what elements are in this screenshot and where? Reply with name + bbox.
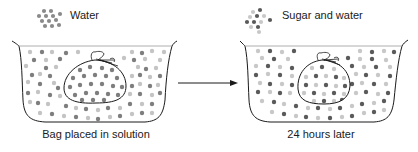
bag-after xyxy=(298,52,350,104)
legend-sugar-water-label: Sugar and water xyxy=(282,9,363,21)
legend-water: Water xyxy=(37,9,99,28)
beaker-initial xyxy=(12,41,177,122)
arrow-icon xyxy=(178,80,238,86)
water-dots-icon xyxy=(37,9,62,28)
osmosis-diagram: Water Sugar and water xyxy=(0,0,418,152)
beaker-after xyxy=(240,40,408,122)
sugar-water-dots-icon xyxy=(245,8,272,34)
legend-water-label: Water xyxy=(70,9,99,21)
legend-sugar-water: Sugar and water xyxy=(245,8,363,34)
caption-initial: Bag placed in solution xyxy=(42,128,150,140)
caption-after: 24 hours later xyxy=(287,128,355,140)
bag-initial xyxy=(64,51,126,103)
